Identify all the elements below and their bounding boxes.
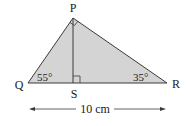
vertex-label-q: Q	[15, 78, 24, 92]
vertex-label-p: P	[70, 1, 77, 15]
triangle-diagram: P Q S R 55° 35° 10 cm	[0, 0, 187, 126]
vertex-label-s: S	[71, 87, 78, 101]
arrowhead-right-icon	[160, 107, 166, 111]
angle-label-r: 35°	[133, 71, 148, 83]
vertex-label-r: R	[172, 77, 180, 91]
dimension-label: 10 cm	[80, 102, 110, 116]
arrowhead-left-icon	[29, 107, 35, 111]
angle-label-q: 55°	[37, 71, 52, 83]
